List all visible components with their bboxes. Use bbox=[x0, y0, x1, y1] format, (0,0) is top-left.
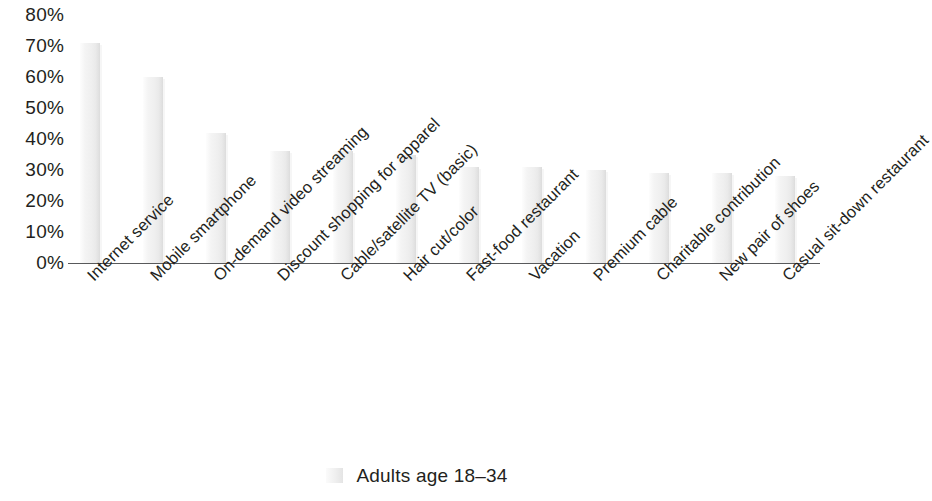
x-axis-labels: Internet serviceMobile smartphoneOn-dema… bbox=[0, 264, 834, 444]
bar bbox=[143, 77, 163, 263]
chart-legend: Adults age 18–34 bbox=[0, 466, 834, 485]
legend-swatch-adults-18-34 bbox=[326, 468, 343, 483]
bar bbox=[586, 170, 606, 263]
legend-label-adults-18-34: Adults age 18–34 bbox=[356, 466, 507, 485]
bar bbox=[80, 43, 100, 263]
